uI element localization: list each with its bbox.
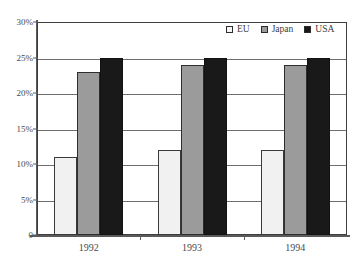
legend-swatch-usa [304,26,311,33]
y-tick-label: 15% [17,124,34,133]
y-tick-label: 10% [17,160,34,169]
y-tick-mark [33,22,38,23]
y-axis-labels: 05%10%15%20%25%30% [0,0,33,262]
legend-item-eu[interactable]: EU [226,24,250,34]
y-tick-label: 5% [21,195,33,204]
bar-japan-1993 [181,65,204,235]
x-tick-label-1992: 1992 [79,242,99,253]
y-tick-mark [33,93,38,94]
scan-edge-artifact: · · · · [0,0,358,7]
y-tick-mark [33,164,38,165]
legend-swatch-eu [226,26,233,33]
bar-eu-1992 [54,157,77,235]
x-tick-label-1994: 1994 [285,242,305,253]
chart-legend: EUJapanUSA [224,23,336,35]
y-tick-mark [33,199,38,200]
bar-usa-1994 [307,58,330,236]
legend-item-usa[interactable]: USA [304,24,334,34]
bar-usa-1992 [100,58,123,236]
bar-japan-1992 [77,72,100,235]
bar-japan-1994 [284,65,307,235]
y-tick-label: 30% [17,18,34,27]
x-axis-line [30,235,350,237]
legend-swatch-japan [261,26,268,33]
y-tick-label: 25% [17,53,34,62]
y-tick-mark [33,57,38,58]
x-tick-mark [140,235,141,240]
x-tick-mark [244,235,245,240]
y-tick-label: 20% [17,89,34,98]
y-tick-mark [33,235,38,236]
bar-eu-1994 [261,150,284,235]
bars-layer [37,22,347,235]
bar-eu-1993 [158,150,181,235]
legend-label: EU [237,24,250,34]
bar-usa-1993 [204,58,227,236]
bar-chart: · · · · 05%10%15%20%25%30% EUJapanUSA 19… [0,0,358,262]
legend-label: Japan [272,24,294,34]
x-tick-label-1993: 1993 [182,242,202,253]
y-tick-mark [33,128,38,129]
legend-item-japan[interactable]: Japan [261,24,294,34]
legend-label: USA [315,24,334,34]
